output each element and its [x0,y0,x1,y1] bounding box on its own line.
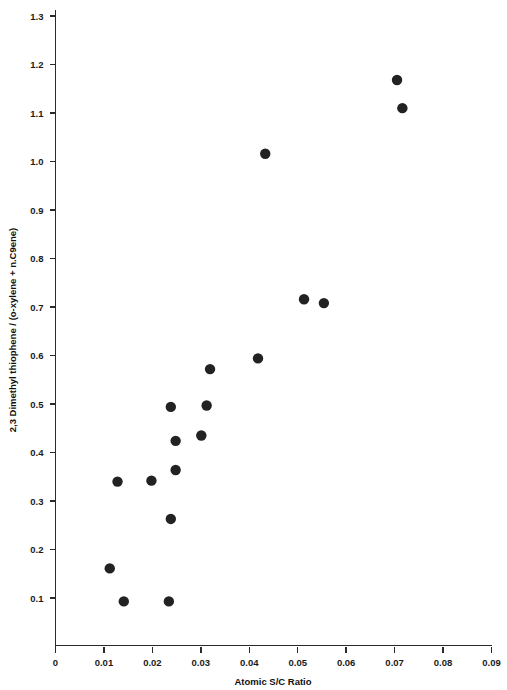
data-point [299,294,309,304]
data-point [105,563,115,573]
y-tick-label: 0.6 [30,350,43,361]
y-tick-label: 1.2 [30,59,43,70]
x-tick-label: 0.04 [240,657,259,668]
data-point [201,400,211,410]
data-point [397,103,407,113]
data-point [166,402,176,412]
x-tick-label: 0.03 [192,657,211,668]
x-axis-title: Atomic S/C Ratio [234,676,311,687]
data-point [196,430,206,440]
data-point [146,475,156,485]
x-tick-label: 0.09 [482,657,501,668]
x-tick-label: 0.01 [95,657,114,668]
x-tick-label: 0.08 [434,657,453,668]
plot-background [0,0,507,690]
data-point [112,476,122,486]
data-point [392,75,402,85]
y-tick-label: 1.0 [30,156,43,167]
scatter-plot-figure: 0.10.20.30.40.50.60.70.80.91.01.11.21.3 … [0,0,507,690]
y-tick-label: 1.3 [30,11,43,22]
data-point [253,353,263,363]
x-tick-label: 0.07 [385,657,404,668]
y-tick-label: 1.1 [30,108,44,119]
plot-canvas: 0.10.20.30.40.50.60.70.80.91.01.11.21.3 … [0,0,507,690]
x-tick-label: 0.02 [143,657,162,668]
data-point [170,436,180,446]
y-tick-label: 0.3 [30,496,43,507]
data-point [205,364,215,374]
y-tick-label: 0.7 [30,302,43,313]
x-tick-label: 0.05 [288,657,307,668]
y-tick-label: 0.2 [30,544,43,555]
data-point [166,514,176,524]
data-point [260,149,270,159]
y-tick-label: 0.5 [30,399,44,410]
data-point [319,298,329,308]
data-point [119,596,129,606]
x-tick-label: 0 [53,657,58,668]
y-tick-label: 0.9 [30,205,43,216]
y-tick-label: 0.1 [30,593,44,604]
x-tick-label: 0.06 [337,657,356,668]
y-tick-label: 0.4 [30,447,44,458]
y-tick-label: 0.8 [30,253,43,264]
data-point [170,465,180,475]
y-axis-title: 2,3 Dimethyl thiophene / (o-xylene + n.C… [7,228,18,433]
data-point [164,596,174,606]
